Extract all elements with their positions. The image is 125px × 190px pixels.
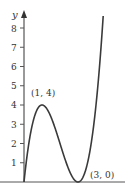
max-point-label: (1, 4) (31, 88, 55, 98)
function-curve (24, 16, 103, 182)
y-axis-arrow-icon (21, 10, 27, 18)
y-tick-label: 3 (11, 120, 17, 130)
y-tick-label: 8 (11, 24, 17, 34)
y-tick-label: 7 (11, 43, 17, 53)
y-axis-label: y (11, 9, 18, 20)
y-tick-label: 2 (11, 139, 17, 149)
cubic-function-chart: y 1 2 3 4 5 6 7 8 (1, 4) (3, 0) (0, 0, 125, 190)
y-tick-label: 1 (11, 158, 17, 168)
y-tick-label: 4 (11, 100, 17, 110)
y-tick-label: 6 (11, 62, 17, 72)
min-point-label: (3, 0) (90, 170, 114, 180)
y-tick-label: 5 (11, 81, 17, 91)
